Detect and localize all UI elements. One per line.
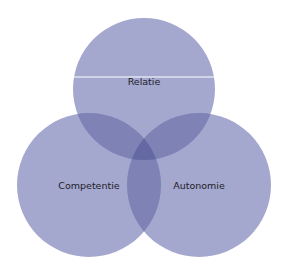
label-competentie: Competentie (58, 180, 120, 191)
label-autonomie: Autonomie (173, 180, 225, 191)
venn-diagram: Relatie Competentie Autonomie (0, 0, 284, 272)
label-relatie: Relatie (128, 76, 161, 87)
